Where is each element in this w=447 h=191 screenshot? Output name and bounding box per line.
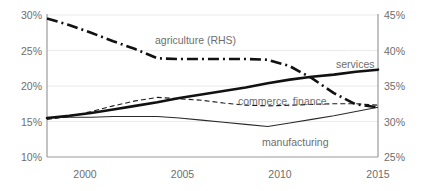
gridlines: [47, 15, 378, 122]
left-tick-label-20: 20%: [21, 80, 42, 92]
x-tick-label-2015: 2015: [366, 168, 390, 180]
left-tick-label-10: 10%: [21, 151, 42, 163]
left-tick-label-15: 15%: [21, 116, 42, 128]
right-axis-ticks: 45% 40% 35% 30% 25%: [384, 9, 405, 163]
right-tick-label-30: 30%: [384, 116, 405, 128]
left-tick-label-25: 25%: [21, 45, 42, 57]
x-tick-label-2000: 2000: [73, 168, 97, 180]
right-tick-label-40: 40%: [384, 45, 405, 57]
x-tick-label-2005: 2005: [171, 168, 195, 180]
right-tick-label-25: 25%: [384, 151, 405, 163]
series-label-commerce-finance: commerce, finance: [238, 95, 327, 107]
right-tick-label-45: 45%: [384, 9, 405, 21]
series-labels: agriculture (RHS) services commerce, fin…: [155, 34, 375, 148]
series-label-agriculture: agriculture (RHS): [155, 34, 236, 46]
series-line-commerce-finance: [47, 97, 378, 119]
series-label-services: services: [336, 58, 375, 70]
x-tick-label-2010: 2010: [268, 168, 292, 180]
series-line-services: [47, 70, 378, 118]
series-label-manufacturing: manufacturing: [262, 136, 329, 148]
line-chart: 30% 25% 20% 15% 10% 45% 40% 35% 30% 25% …: [0, 0, 447, 191]
left-axis-ticks: 30% 25% 20% 15% 10%: [21, 9, 42, 163]
right-tick-label-35: 35%: [384, 80, 405, 92]
chart-canvas: 30% 25% 20% 15% 10% 45% 40% 35% 30% 25% …: [0, 0, 447, 191]
bottom-axis-ticks: 2000 2005 2010 2015: [73, 168, 390, 180]
left-tick-label-30: 30%: [21, 9, 42, 21]
